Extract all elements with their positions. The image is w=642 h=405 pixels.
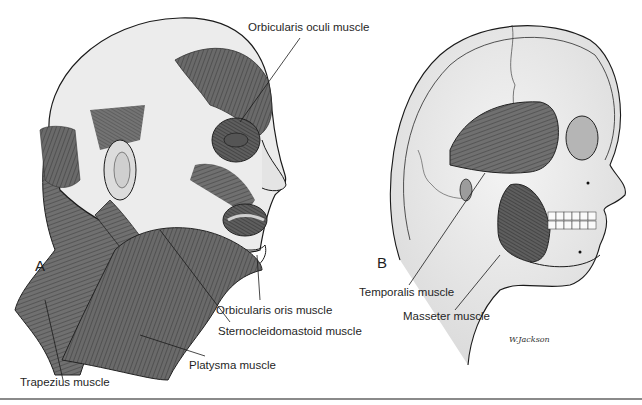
bottom-rule bbox=[0, 398, 642, 400]
eye-orbit bbox=[566, 116, 598, 160]
label-temporalis: Temporalis muscle bbox=[359, 287, 454, 299]
occipitalis-muscle bbox=[40, 126, 80, 187]
label-trapezius: Trapezius muscle bbox=[20, 377, 110, 389]
anatomy-figure: A B Orbicularis oculi muscle Orbicularis… bbox=[0, 0, 642, 405]
label-platysma: Platysma muscle bbox=[189, 360, 276, 372]
panel-letter-b: B bbox=[377, 255, 387, 270]
panel-letter-a: A bbox=[35, 258, 45, 273]
label-masseter: Masseter muscle bbox=[403, 311, 490, 323]
label-orbicularis-oris: Orbicularis oris muscle bbox=[216, 305, 332, 317]
ear-canal bbox=[460, 179, 472, 201]
label-orbicularis-oculi: Orbicularis oculi muscle bbox=[248, 22, 369, 34]
label-sternocleidomastoid: Sternocleidomastoid muscle bbox=[218, 326, 362, 338]
artist-signature: W.Jackson bbox=[509, 335, 550, 344]
